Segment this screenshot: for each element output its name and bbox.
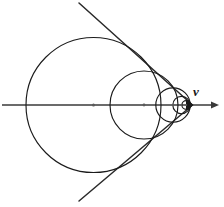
center-dot-circle-1	[92, 104, 95, 107]
axis-arrowhead	[211, 101, 219, 108]
inscribed-circles-diagram	[0, 0, 224, 207]
center-dot-circle-5	[185, 104, 187, 106]
center-dot-circle-4	[180, 104, 182, 106]
upper-tangent-line	[79, 3, 193, 105]
center-dot-circle-3	[172, 104, 175, 107]
axis-label-v: v	[193, 85, 199, 98]
center-dot-circle-2	[143, 104, 146, 107]
lower-tangent-line	[79, 105, 193, 201]
figure-container: v	[0, 0, 224, 207]
